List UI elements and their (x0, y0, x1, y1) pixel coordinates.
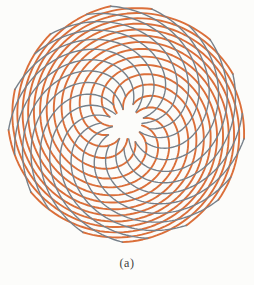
figure-caption: (a) (0, 256, 254, 271)
phyllotaxis-spiral-figure (0, 0, 254, 285)
figure-panel: (a) (0, 0, 254, 285)
gray-counterclockwise-parastichies-arm (23, 71, 126, 192)
